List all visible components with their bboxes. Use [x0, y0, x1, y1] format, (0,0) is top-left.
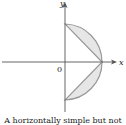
origin-label: 0	[57, 65, 62, 74]
region-diagram: x y 0 A horizontally simple but not	[0, 0, 126, 125]
y-axis-label: y	[59, 0, 65, 8]
shaded-region-upper	[65, 24, 102, 62]
figure-caption: A horizontally simple but not	[0, 116, 126, 125]
diagram-canvas: x y 0	[0, 0, 126, 125]
x-axis-label: x	[119, 58, 124, 67]
shaded-region-lower	[65, 62, 102, 100]
